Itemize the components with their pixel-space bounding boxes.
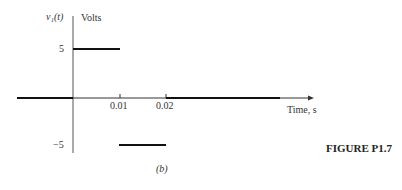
figure-caption: FIGURE P1.7	[326, 142, 392, 154]
y-axis-units: Volts	[81, 12, 101, 23]
tick-label-002: 0.02	[156, 100, 174, 111]
tick-label-001: 0.01	[110, 100, 128, 111]
tick-label-pos5: 5	[59, 43, 64, 54]
x-axis-label: Time, s	[287, 104, 317, 115]
y-axis-name: v₁(t)	[46, 11, 63, 22]
subfigure-label: (b)	[156, 163, 168, 174]
tick-label-neg5: −5	[53, 139, 64, 150]
plot-area	[0, 0, 402, 190]
x-axis-arrow-icon	[308, 96, 314, 101]
